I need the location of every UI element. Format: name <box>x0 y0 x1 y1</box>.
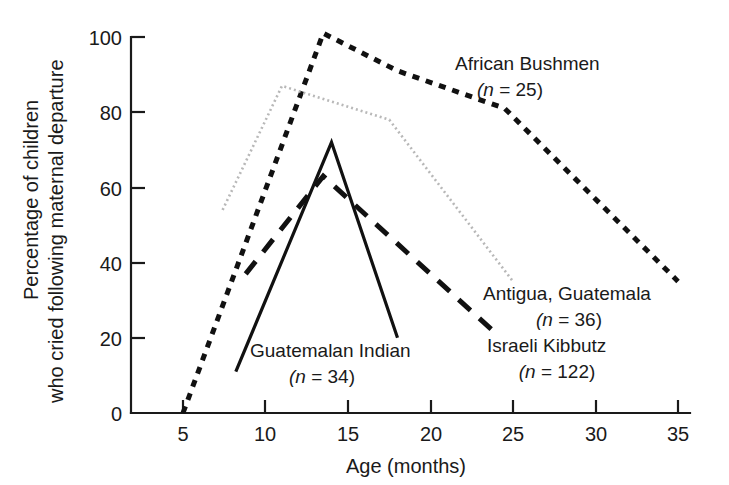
annotation-guatemalan-indian-name: Guatemalan Indian <box>250 340 411 361</box>
annotation-antigua-n: (n = 36) <box>536 309 602 330</box>
x-axis-title: Age (months) <box>346 455 466 477</box>
y-tick-label-100: 100 <box>89 27 122 49</box>
annotation-guatemalan-indian-n: (n = 34) <box>289 366 355 387</box>
y-axis-tick-labels: 100 80 60 40 20 0 <box>89 27 122 425</box>
y-axis-ticks <box>131 37 145 338</box>
x-tick-label-35: 35 <box>667 423 689 445</box>
series-annotations: African Bushmen (n = 25) Antigua, Guatem… <box>250 53 651 387</box>
annotation-african-bushmen-name: African Bushmen <box>455 53 600 74</box>
series-line-guatemalan-indian <box>236 142 398 371</box>
y-tick-label-20: 20 <box>100 328 122 350</box>
y-tick-label-80: 80 <box>100 102 122 124</box>
x-tick-label-15: 15 <box>337 423 359 445</box>
x-tick-label-30: 30 <box>585 423 607 445</box>
y-tick-label-60: 60 <box>100 178 122 200</box>
x-tick-label-10: 10 <box>254 423 276 445</box>
x-tick-label-25: 25 <box>502 423 524 445</box>
y-axis-title-line1: Percentage of children <box>20 100 42 300</box>
x-axis-tick-labels: 5 10 15 20 25 30 35 <box>177 423 689 445</box>
x-tick-label-5: 5 <box>177 423 188 445</box>
annotation-antigua-name: Antigua, Guatemala <box>483 283 651 304</box>
y-axis-title-line2: who cried following maternal departure <box>45 59 67 404</box>
x-tick-label-20: 20 <box>420 423 442 445</box>
line-chart: Percentage of children who cried followi… <box>0 0 729 485</box>
figure-container: Percentage of children who cried followi… <box>0 0 729 485</box>
annotation-israeli-kibbutz-name: Israeli Kibbutz <box>487 335 606 356</box>
annotation-israeli-kibbutz-n: (n = 122) <box>519 361 596 382</box>
annotation-african-bushmen-n: (n = 25) <box>477 79 543 100</box>
y-tick-label-40: 40 <box>100 253 122 275</box>
x-axis-ticks <box>183 400 678 413</box>
y-tick-label-0: 0 <box>111 403 122 425</box>
